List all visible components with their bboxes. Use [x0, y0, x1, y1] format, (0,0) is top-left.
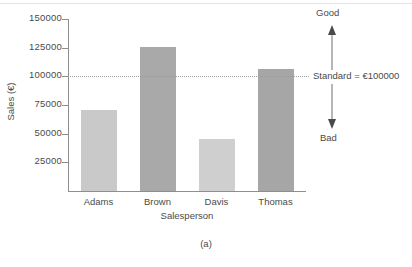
x-axis-label-thomas: Thomas: [236, 196, 316, 207]
up-arrow-icon: [325, 24, 339, 70]
bar-series: [69, 19, 305, 191]
good-annotation-label: Good: [316, 7, 339, 18]
figure-panel: 250005000075000100000125000150000 AdamsB…: [0, 0, 412, 267]
x-axis-line: [68, 191, 306, 192]
y-axis-tick-label: 25000: [6, 155, 62, 166]
y-axis-tick: [62, 134, 68, 135]
bad-annotation-label: Bad: [320, 132, 337, 143]
standard-reference-line: [68, 76, 309, 77]
x-axis-title: Salesperson: [68, 210, 306, 221]
y-axis-tick: [62, 105, 68, 106]
y-axis-tick: [62, 19, 68, 20]
y-axis-tick-label: 125000: [6, 41, 62, 52]
bar-thomas: [258, 69, 294, 191]
standard-line-label: Standard = €100000: [313, 70, 399, 81]
figure-caption: (a): [0, 238, 412, 249]
y-axis-tick: [62, 162, 68, 163]
y-axis-tick-label: 150000: [6, 12, 62, 23]
bar-brown: [140, 47, 176, 191]
bar-davis: [199, 139, 235, 191]
y-axis-tick: [62, 48, 68, 49]
bar-adams: [81, 110, 117, 191]
y-axis-title: Sales (€): [5, 54, 16, 150]
down-arrow-icon: [325, 84, 339, 130]
page-top-rule: [0, 3, 412, 4]
